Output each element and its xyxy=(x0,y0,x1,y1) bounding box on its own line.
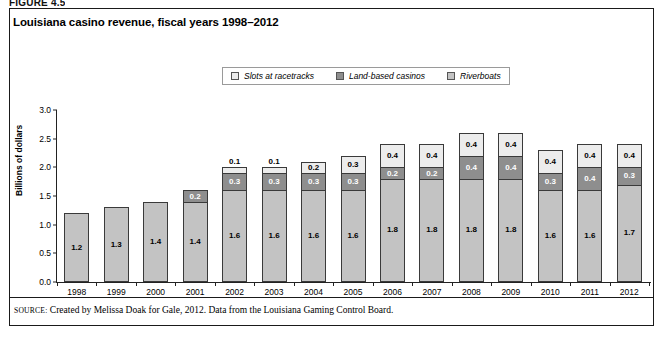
y-axis-tick-mark xyxy=(53,196,57,197)
source-divider xyxy=(10,297,653,298)
x-axis-tick-label: 2011 xyxy=(570,287,610,297)
y-axis-title: Billions of dollars xyxy=(14,125,24,196)
bar-segment-value: 1.2 xyxy=(71,244,82,252)
bar-segment-riverboats: 1.7 xyxy=(617,185,642,282)
bar-segment-riverboats: 1.4 xyxy=(183,202,208,282)
x-axis-tick-mark xyxy=(412,283,413,286)
bar-stack-2004[interactable]: 1.60.30.2 xyxy=(301,162,326,282)
bar-segment-land-based-casinos: 0.3 xyxy=(262,173,287,190)
bar-segment-slots-at-racetracks: 0.4 xyxy=(538,150,563,173)
bar-segment-value: 1.6 xyxy=(269,232,280,240)
x-axis-tick-label: 2005 xyxy=(333,287,373,297)
bar-segment-value: 1.4 xyxy=(150,238,161,246)
chart-legend: Slots at racetracksLand-based casinosRiv… xyxy=(222,67,510,85)
x-axis-tick-label: 1999 xyxy=(96,287,136,297)
bar-stack-2006[interactable]: 1.80.20.4 xyxy=(380,144,405,282)
bar-segment-value: 0.4 xyxy=(624,152,635,160)
bar-stack-2012[interactable]: 1.70.30.4 xyxy=(617,144,642,282)
x-axis-tick-label: 2003 xyxy=(254,287,294,297)
x-axis-tick-label: 2004 xyxy=(294,287,334,297)
bar-segment-value: 0.3 xyxy=(347,178,358,186)
bar-stack-2011[interactable]: 1.60.40.4 xyxy=(577,144,602,282)
bar-stack-2002[interactable]: 1.60.30.1 xyxy=(222,167,247,282)
bar-segment-value: 0.3 xyxy=(347,161,358,169)
bar-segment-land-based-casinos: 0.4 xyxy=(498,156,523,179)
bar-segment-riverboats: 1.8 xyxy=(498,179,523,282)
x-axis-tick-mark xyxy=(254,283,255,286)
bar-segment-value: 0.3 xyxy=(624,172,635,180)
x-axis-tick-mark xyxy=(333,283,334,286)
bar-segment-slots-at-racetracks: 0.3 xyxy=(341,156,366,173)
bar-segment-land-based-casinos: 0.3 xyxy=(341,173,366,190)
bar-segment-value: 0.2 xyxy=(190,193,201,201)
y-axis-tick-mark xyxy=(53,138,57,139)
x-axis-tick-mark xyxy=(294,283,295,286)
bar-segment-slots-at-racetracks: 0.4 xyxy=(419,144,444,167)
bar-stack-2000[interactable]: 1.4 xyxy=(143,202,168,282)
bar-stack-2009[interactable]: 1.80.40.4 xyxy=(498,133,523,282)
bar-segment-riverboats: 1.8 xyxy=(380,179,405,282)
x-axis-tick-mark xyxy=(215,283,216,286)
bar-segment-value: 1.8 xyxy=(505,226,516,234)
bar-segment-riverboats: 1.4 xyxy=(143,202,168,282)
bar-segment-value: 0.4 xyxy=(584,152,595,160)
x-axis-tick-label: 2010 xyxy=(530,287,570,297)
bar-segment-value: 0.3 xyxy=(229,178,240,186)
legend-swatch-icon xyxy=(231,72,239,80)
x-axis-tick-label: 2007 xyxy=(412,287,452,297)
bar-segment-value: 0.4 xyxy=(505,164,516,172)
chart-title: Louisiana casino revenue, fiscal years 1… xyxy=(13,16,279,28)
x-axis-tick-mark xyxy=(452,283,453,286)
y-axis-tick-mark xyxy=(53,224,57,225)
bar-segment-slots-at-racetracks: 0.4 xyxy=(459,133,484,156)
bar-segment-value: 0.3 xyxy=(308,178,319,186)
legend-label: Riverboats xyxy=(460,71,501,81)
bar-segment-riverboats: 1.6 xyxy=(577,190,602,282)
bar-segment-riverboats: 1.6 xyxy=(262,190,287,282)
legend-item-riverboats[interactable]: Riverboats xyxy=(447,71,501,81)
bar-stack-1998[interactable]: 1.2 xyxy=(64,213,89,282)
bar-segment-riverboats: 1.2 xyxy=(64,213,89,282)
bar-segment-value: 0.2 xyxy=(387,170,398,178)
x-axis-tick-mark xyxy=(531,283,532,286)
bar-stack-2007[interactable]: 1.80.20.4 xyxy=(419,144,444,282)
bar-segment-value: 0.4 xyxy=(505,141,516,149)
bar-segment-riverboats: 1.6 xyxy=(222,190,247,282)
bar-segment-value: 1.4 xyxy=(190,238,201,246)
legend-item-slots-at-racetracks[interactable]: Slots at racetracks xyxy=(231,71,314,81)
bar-segment-value: 0.1 xyxy=(269,157,280,166)
legend-swatch-icon xyxy=(447,72,455,80)
bar-stack-2008[interactable]: 1.80.40.4 xyxy=(459,133,484,282)
bar-segment-value: 1.6 xyxy=(347,232,358,240)
bar-stack-1999[interactable]: 1.3 xyxy=(104,207,129,282)
bar-segment-value: 1.6 xyxy=(229,232,240,240)
bar-segment-value: 0.4 xyxy=(584,175,595,183)
bar-segment-value: 1.8 xyxy=(426,226,437,234)
bar-segment-value: 1.6 xyxy=(584,232,595,240)
bar-segment-slots-at-racetracks: 0.4 xyxy=(617,144,642,167)
legend-item-land-based-casinos[interactable]: Land-based casinos xyxy=(336,71,425,81)
bar-segment-value: 1.8 xyxy=(466,226,477,234)
bar-segment-slots-at-racetracks: 0.4 xyxy=(498,133,523,156)
bar-stack-2003[interactable]: 1.60.30.1 xyxy=(262,167,287,282)
bar-segment-value: 0.4 xyxy=(545,158,556,166)
figure-number: FIGURE 4.5 xyxy=(9,0,65,7)
x-axis-tick-label: 2002 xyxy=(215,287,255,297)
bar-stack-2010[interactable]: 1.60.30.4 xyxy=(538,150,563,282)
bar-segment-land-based-casinos: 0.3 xyxy=(222,173,247,190)
x-axis-tick-label: 1998 xyxy=(57,287,97,297)
x-axis-tick-label: 2008 xyxy=(451,287,491,297)
bar-segment-land-based-casinos: 0.2 xyxy=(380,167,405,178)
bar-segment-riverboats: 1.6 xyxy=(538,190,563,282)
source-text: Created by Melissa Doak for Gale, 2012. … xyxy=(50,305,394,315)
bar-segment-value: 0.4 xyxy=(466,164,477,172)
bar-segment-land-based-casinos: 0.4 xyxy=(577,167,602,190)
bar-stack-2005[interactable]: 1.60.30.3 xyxy=(341,156,366,282)
x-axis-tick-label: 2000 xyxy=(136,287,176,297)
bar-stack-2001[interactable]: 1.40.2 xyxy=(183,190,208,282)
bar-segment-land-based-casinos: 0.2 xyxy=(419,167,444,178)
bar-segment-slots-at-racetracks: 0.4 xyxy=(380,144,405,167)
bar-segment-value: 0.2 xyxy=(308,164,319,172)
bar-segment-land-based-casinos: 0.3 xyxy=(301,173,326,190)
bar-segment-value: 1.3 xyxy=(111,241,122,249)
